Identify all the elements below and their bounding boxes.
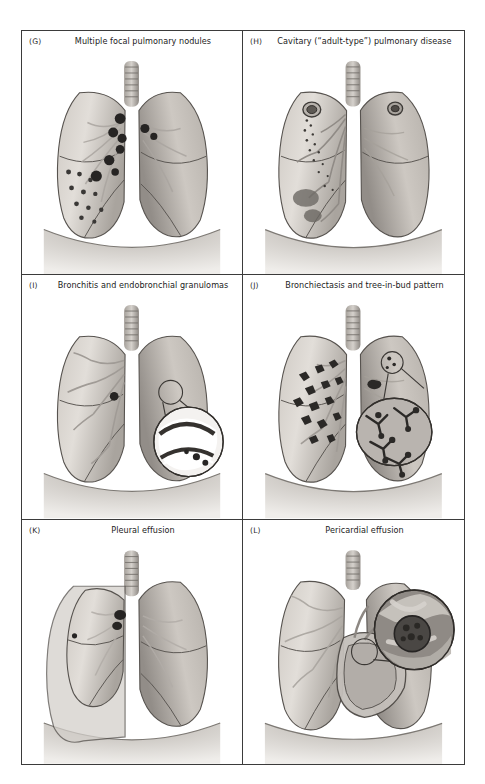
panel-i-title: Bronchitis and endobronchial granulomas bbox=[52, 280, 234, 290]
panel-j-letter: (J) bbox=[250, 281, 259, 290]
panel-h-title: Cavitary (“adult-type”) pulmonary diseas… bbox=[273, 36, 456, 46]
panel-j-title: Bronchiectasis and tree-in-bud pattern bbox=[273, 280, 456, 290]
panel-k-letter: (K) bbox=[29, 526, 41, 535]
panel-h: (H) Cavitary (“adult-type”) pulmonary di… bbox=[243, 31, 464, 275]
panel-g-title: Multiple focal pulmonary nodules bbox=[52, 36, 234, 46]
panel-g-letter: (G) bbox=[29, 37, 41, 46]
panel-h-illustration bbox=[243, 53, 464, 274]
panel-k: (K) Pleural effusion bbox=[22, 520, 243, 764]
figure-panel-grid: (G) Multiple focal pulmonary nodules bbox=[21, 30, 465, 765]
figure-caption bbox=[4, 769, 474, 784]
panel-k-title: Pleural effusion bbox=[52, 525, 234, 535]
panel-k-illustration bbox=[22, 542, 242, 764]
panel-l-illustration bbox=[243, 542, 464, 764]
panel-i-letter: (I) bbox=[29, 281, 38, 290]
panel-l-title: Pericardial effusion bbox=[273, 525, 456, 535]
panel-h-letter: (H) bbox=[250, 37, 262, 46]
panel-j-illustration bbox=[243, 297, 464, 518]
panel-l-letter: (L) bbox=[250, 526, 261, 535]
panel-i: (I) Bronchitis and endobronchial granulo… bbox=[22, 275, 243, 519]
panel-j: (J) Bronchiectasis and tree-in-bud patte… bbox=[243, 275, 464, 519]
panel-g-illustration bbox=[22, 53, 242, 274]
panel-l: (L) Pericardial effusion bbox=[243, 520, 464, 764]
panel-i-illustration bbox=[22, 297, 242, 518]
panel-g: (G) Multiple focal pulmonary nodules bbox=[22, 31, 243, 275]
